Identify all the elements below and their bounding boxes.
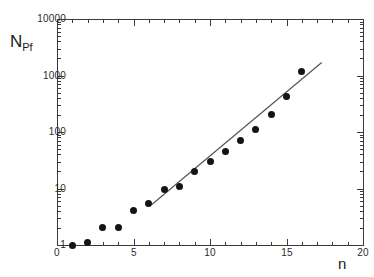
x-axis-minor-tick-top: [195, 20, 196, 23]
chart-figure: 11010010001000005101520 NPf n: [0, 0, 374, 277]
x-axis-minor-tick-top: [348, 20, 349, 23]
y-axis-title-main: N: [10, 32, 22, 51]
y-axis-minor-tick-right: [360, 88, 363, 89]
data-point: [283, 93, 290, 100]
x-axis-major-tick: [287, 239, 288, 245]
y-axis-minor-tick: [58, 49, 61, 50]
x-axis-minor-tick: [103, 242, 104, 245]
y-axis-minor-tick-right: [360, 36, 363, 37]
x-axis-major-tick: [363, 239, 364, 245]
data-point: [207, 158, 214, 165]
y-axis-minor-tick-right: [360, 105, 363, 106]
y-axis-minor-tick: [58, 98, 61, 99]
y-axis-minor-tick-right: [360, 98, 363, 99]
x-axis-tick-label: 5: [119, 248, 149, 258]
y-axis-minor-tick: [58, 211, 61, 212]
y-axis-minor-tick-right: [360, 58, 363, 59]
x-axis-minor-tick: [302, 242, 303, 245]
y-axis-minor-tick: [58, 162, 61, 163]
y-axis-minor-tick: [58, 135, 61, 136]
y-axis-minor-tick: [58, 206, 61, 207]
x-axis-major-tick-top: [57, 20, 58, 26]
y-axis-minor-tick-right: [360, 218, 363, 219]
y-axis-minor-tick-right: [360, 201, 363, 202]
x-axis-minor-tick: [164, 242, 165, 245]
x-axis-major-tick-top: [287, 20, 288, 26]
y-axis-minor-tick-right: [360, 162, 363, 163]
y-axis-minor-tick-right: [360, 137, 363, 138]
y-axis-minor-tick-right: [360, 197, 363, 198]
x-axis-minor-tick-top: [179, 20, 180, 23]
data-point: [69, 242, 76, 249]
x-axis-tick-label: 10: [195, 248, 225, 258]
y-axis-minor-tick: [58, 141, 61, 142]
x-axis-minor-tick: [256, 242, 257, 245]
y-axis-minor-tick-right: [360, 191, 363, 192]
x-axis-bottom-spine: [57, 245, 364, 246]
y-axis-minor-tick-right: [360, 84, 363, 85]
y-axis-tick-label: 1000: [43, 71, 66, 81]
x-axis-minor-tick: [149, 242, 150, 245]
x-axis-minor-tick-top: [118, 20, 119, 23]
x-axis-major-tick-top: [363, 20, 364, 26]
x-axis-minor-tick: [225, 242, 226, 245]
x-axis-minor-tick: [348, 242, 349, 245]
y-axis-minor-tick-right: [360, 32, 363, 33]
y-axis-minor-tick: [58, 78, 61, 79]
y-axis-minor-tick: [58, 22, 61, 23]
y-axis-minor-tick: [58, 58, 61, 59]
x-axis-minor-tick-top: [103, 20, 104, 23]
x-axis-major-tick: [134, 239, 135, 245]
x-axis-minor-tick-top: [317, 20, 318, 23]
y-axis-minor-tick-right: [360, 28, 363, 29]
y-axis-minor-tick: [58, 197, 61, 198]
y-axis-minor-tick-right: [360, 141, 363, 142]
y-axis-minor-tick: [58, 32, 61, 33]
x-axis-minor-tick-top: [149, 20, 150, 23]
y-axis-minor-tick: [58, 81, 61, 82]
data-point: [176, 183, 183, 190]
data-point: [268, 111, 275, 118]
x-axis-minor-tick: [317, 242, 318, 245]
y-axis-minor-tick-right: [360, 41, 363, 42]
y-axis-minor-tick-right: [360, 149, 363, 150]
y-axis-minor-tick: [58, 24, 61, 25]
y-axis-minor-tick-right: [360, 93, 363, 94]
data-point: [99, 224, 106, 231]
x-axis-minor-tick: [332, 242, 333, 245]
x-axis-minor-tick: [179, 242, 180, 245]
x-axis-major-tick: [210, 239, 211, 245]
y-axis-major-tick-right: [357, 76, 363, 77]
x-axis-major-tick-top: [134, 20, 135, 26]
x-axis-minor-tick: [271, 242, 272, 245]
y-axis-minor-tick: [58, 105, 61, 106]
y-axis-minor-tick-right: [360, 81, 363, 82]
y-axis-minor-tick: [58, 154, 61, 155]
y-axis-major-tick-right: [357, 189, 363, 190]
data-point: [298, 68, 305, 75]
y-axis-minor-tick: [58, 218, 61, 219]
x-axis-minor-tick-top: [72, 20, 73, 23]
x-axis-minor-tick: [241, 242, 242, 245]
data-point: [237, 137, 244, 144]
y-axis-minor-tick-right: [360, 194, 363, 195]
x-axis-tick-label: 20: [348, 248, 374, 258]
x-axis-minor-tick-top: [302, 20, 303, 23]
y-axis-minor-tick-right: [360, 206, 363, 207]
y-axis-right-spine: [363, 19, 364, 246]
y-axis-major-tick-right: [357, 132, 363, 133]
x-axis-minor-tick: [118, 242, 119, 245]
data-point: [115, 224, 122, 231]
y-axis-minor-tick: [58, 171, 61, 172]
y-axis-minor-tick: [58, 88, 61, 89]
data-point: [191, 168, 198, 175]
y-axis-minor-tick: [58, 191, 61, 192]
y-axis-minor-tick-right: [360, 49, 363, 50]
y-axis-major-tick-right: [357, 245, 363, 246]
y-axis-tick-label: 10000: [37, 14, 66, 24]
y-axis-minor-tick: [58, 194, 61, 195]
x-axis-minor-tick-top: [88, 20, 89, 23]
y-axis-minor-tick-right: [360, 115, 363, 116]
x-axis-title: n: [338, 256, 346, 272]
y-axis-minor-tick: [58, 228, 61, 229]
